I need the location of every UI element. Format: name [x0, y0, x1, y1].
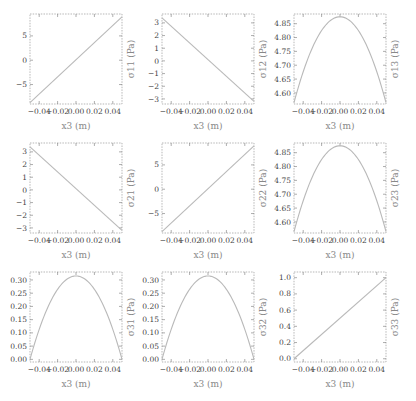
y-tick-label: 3 — [154, 18, 159, 27]
x-tick-label: 0.02 — [86, 107, 103, 116]
y-tick-label: 0.10 — [142, 328, 159, 337]
y-axis-label: σ13 (Pa) — [390, 40, 400, 79]
x-tick-label: 0.00 — [332, 236, 349, 245]
y-tick-label: −3 — [148, 95, 159, 104]
data-curve — [294, 17, 386, 103]
x-tick-label: 0.02 — [86, 365, 103, 374]
x-axis-label: x3 (m) — [325, 121, 354, 131]
y-axis-label: σ12 (Pa) — [258, 40, 268, 79]
y-tick-label: −5 — [16, 80, 27, 89]
y-tick-label: 0.8 — [279, 289, 291, 298]
y-tick-label: 4.80 — [274, 33, 291, 42]
y-tick-label: 0.6 — [279, 306, 291, 315]
y-tick-label: −1 — [16, 198, 27, 207]
data-curve — [30, 17, 122, 103]
y-tick-label: 0.15 — [142, 315, 159, 324]
x-tick-label: 0.02 — [350, 107, 367, 116]
y-tick-label: 0.30 — [142, 276, 159, 285]
subplot-2-2: −0.04−0.020.000.020.04−505x3 (m)σ22 (Pa) — [148, 143, 268, 260]
x-tick-label: 0.00 — [332, 365, 349, 374]
x-tick-label: 0.04 — [104, 107, 121, 116]
x-axis-label: x3 (m) — [325, 379, 354, 389]
y-tick-label: 0 — [154, 57, 159, 66]
y-tick-label: 4.85 — [274, 19, 291, 28]
y-tick-label: −2 — [16, 211, 27, 220]
y-tick-label: 4.65 — [274, 75, 291, 84]
subplot-3-2: −0.04−0.020.000.020.040.000.050.100.150.… — [142, 272, 268, 389]
data-curve — [162, 146, 254, 232]
x-tick-label: 0.02 — [350, 365, 367, 374]
y-tick-label: 0.00 — [10, 355, 27, 364]
subplot-1-1: −0.04−0.020.000.020.04−505x3 (m)σ11 (Pa) — [16, 14, 136, 131]
y-tick-label: 0.15 — [10, 315, 27, 324]
y-tick-label: −3 — [16, 224, 27, 233]
data-curve — [294, 278, 386, 359]
data-curve — [162, 18, 254, 102]
y-tick-label: 0 — [154, 185, 159, 194]
y-tick-label: 4.60 — [274, 218, 291, 227]
y-tick-label: 2 — [154, 31, 159, 40]
x-tick-label: 0.02 — [218, 365, 235, 374]
x-axis-label: x3 (m) — [61, 250, 90, 260]
x-tick-label: 0.04 — [104, 365, 121, 374]
y-tick-label: 5 — [154, 160, 159, 169]
y-tick-label: 0.05 — [142, 342, 159, 351]
y-tick-label: 4.75 — [274, 176, 291, 185]
y-tick-label: −2 — [148, 82, 159, 91]
y-tick-label: 1 — [154, 44, 159, 53]
x-tick-label: −0.02 — [310, 236, 333, 245]
x-tick-label: 0.04 — [368, 107, 385, 116]
y-tick-label: 3 — [22, 147, 27, 156]
subplot-2-3: −0.04−0.020.000.020.044.604.654.704.754.… — [274, 143, 400, 260]
y-tick-label: 1 — [22, 173, 27, 182]
x-axis-label: x3 (m) — [193, 379, 222, 389]
y-tick-label: 4.85 — [274, 148, 291, 157]
y-tick-label: 4.60 — [274, 89, 291, 98]
y-axis-label: σ21 (Pa) — [126, 169, 136, 208]
y-tick-label: 0.00 — [142, 355, 159, 364]
y-axis-label: σ33 (Pa) — [390, 298, 400, 337]
x-tick-label: 0.04 — [236, 365, 253, 374]
y-tick-label: 0.20 — [10, 302, 27, 311]
x-tick-label: −0.02 — [178, 365, 201, 374]
subplot-3-1: −0.04−0.020.000.020.040.000.050.100.150.… — [10, 272, 136, 389]
y-axis-label: σ23 (Pa) — [390, 169, 400, 208]
y-tick-label: −1 — [148, 69, 159, 78]
y-tick-label: 0.2 — [279, 338, 291, 347]
y-tick-label: 0.05 — [10, 342, 27, 351]
data-curve — [294, 146, 386, 232]
data-curve — [162, 276, 254, 359]
x-tick-label: 0.00 — [68, 107, 85, 116]
y-tick-label: 0 — [22, 186, 27, 195]
y-tick-label: 4.65 — [274, 204, 291, 213]
y-tick-label: 2 — [22, 160, 27, 169]
subplot-3-3: −0.04−0.020.000.020.040.00.20.40.60.81.0… — [279, 272, 400, 389]
x-tick-label: 0.04 — [368, 236, 385, 245]
x-tick-label: −0.02 — [310, 107, 333, 116]
data-curve — [30, 147, 122, 231]
x-tick-label: −0.02 — [46, 365, 69, 374]
y-tick-label: 4.80 — [274, 162, 291, 171]
x-axis-label: x3 (m) — [61, 379, 90, 389]
x-tick-label: 0.00 — [68, 365, 85, 374]
x-tick-label: 0.02 — [86, 236, 103, 245]
x-tick-label: −0.02 — [178, 107, 201, 116]
subplot-grid: −0.04−0.020.000.020.04−505x3 (m)σ11 (Pa)… — [10, 14, 400, 389]
subplot-1-2: −0.04−0.020.000.020.04−3−2−10123x3 (m)σ1… — [148, 14, 268, 131]
x-tick-label: 0.00 — [200, 365, 217, 374]
y-tick-label: 0.0 — [279, 354, 291, 363]
stress-components-figure: −0.04−0.020.000.020.04−505x3 (m)σ11 (Pa)… — [0, 0, 416, 401]
y-tick-label: 4.75 — [274, 47, 291, 56]
x-axis-label: x3 (m) — [193, 121, 222, 131]
plot-frame — [294, 272, 386, 362]
y-axis-label: σ31 (Pa) — [126, 298, 136, 337]
x-tick-label: 0.00 — [68, 236, 85, 245]
y-tick-label: 0.10 — [10, 328, 27, 337]
x-tick-label: 0.02 — [218, 107, 235, 116]
x-tick-label: 0.02 — [218, 236, 235, 245]
x-tick-label: 0.00 — [332, 107, 349, 116]
x-tick-label: 0.04 — [236, 107, 253, 116]
y-tick-label: 4.70 — [274, 190, 291, 199]
x-tick-label: −0.02 — [310, 365, 333, 374]
x-tick-label: 0.02 — [350, 236, 367, 245]
